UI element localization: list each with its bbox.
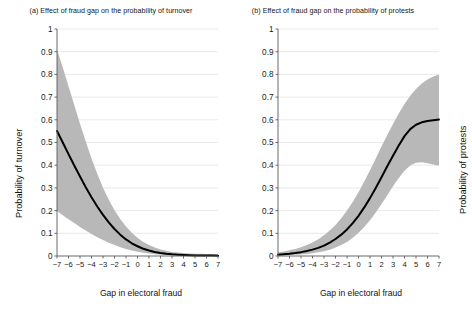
y-tick-label: 1 [269, 25, 274, 34]
x-tick-label: 3 [170, 260, 174, 269]
chart-panel-b: (b) Effect of fraud gap on the probabili… [222, 0, 444, 324]
x-tick-label: −6 [64, 260, 73, 269]
y-tick-label: 1 [48, 25, 53, 34]
x-tick-label: 0 [135, 260, 139, 269]
x-tick-label: 7 [437, 260, 441, 269]
y-tick-label: 0.1 [41, 229, 53, 238]
y-tick-label: 0.6 [41, 116, 53, 125]
x-tick-label: 6 [204, 260, 208, 269]
y-tick-label: 0.8 [262, 70, 274, 79]
y-tick-label: 0.2 [41, 207, 53, 216]
y-tick-label: 0.1 [262, 229, 274, 238]
x-tick-label: 7 [216, 260, 220, 269]
y-tick-label: 0.4 [262, 161, 274, 170]
x-tick-label: 3 [391, 260, 395, 269]
x-tick-label: −5 [76, 260, 85, 269]
y-tick-label: 0.9 [262, 48, 274, 57]
x-tick-label: 1 [368, 260, 372, 269]
x-tick-label: −1 [343, 260, 352, 269]
x-tick-label: −7 [53, 260, 62, 269]
x-tick-label: −7 [274, 260, 283, 269]
y-tick-label: 0.5 [41, 138, 53, 147]
x-tick-label: 5 [193, 260, 197, 269]
x-tick-label: 2 [158, 260, 162, 269]
x-tick-label: 2 [379, 260, 383, 269]
x-tick-label: −6 [285, 260, 294, 269]
y-tick-label: 0.5 [262, 138, 274, 147]
y-tick-label: 0.3 [262, 184, 274, 193]
x-tick-label: 1 [147, 260, 151, 269]
x-tick-label: −3 [320, 260, 329, 269]
x-tick-label: −2 [110, 260, 119, 269]
x-tick-label: −5 [297, 260, 306, 269]
panel-b-y-axis-label: Probability of protests [458, 126, 468, 214]
y-tick-label: 0.7 [41, 93, 53, 102]
x-tick-label: −1 [122, 260, 131, 269]
y-tick-label: 0.2 [262, 207, 274, 216]
x-tick-label: 4 [181, 260, 185, 269]
y-tick-label: 0.6 [262, 116, 274, 125]
x-tick-label: −4 [308, 260, 317, 269]
x-tick-label: −3 [99, 260, 108, 269]
x-tick-label: 6 [425, 260, 429, 269]
confidence-band [57, 49, 218, 256]
y-tick-label: 0.3 [41, 184, 53, 193]
y-tick-label: 0.8 [41, 70, 53, 79]
x-tick-label: −4 [87, 260, 96, 269]
chart-panel-a: (a) Effect of fraud gap on the probabili… [0, 0, 222, 324]
y-tick-label: 0.7 [262, 93, 274, 102]
x-tick-label: 0 [356, 260, 360, 269]
panel-b-plot: 00.10.20.30.40.50.60.70.80.91−7−6−5−4−3−… [222, 0, 444, 324]
y-tick-label: 0.9 [41, 48, 53, 57]
x-tick-label: 5 [414, 260, 418, 269]
y-tick-label: 0.4 [41, 161, 53, 170]
x-tick-label: −2 [331, 260, 340, 269]
x-tick-label: 4 [402, 260, 406, 269]
panel-a-plot: 00.10.20.30.40.50.60.70.80.91−7−6−5−4−3−… [0, 0, 222, 324]
